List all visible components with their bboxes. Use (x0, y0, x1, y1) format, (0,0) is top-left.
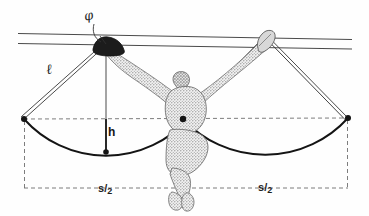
pendulum-diagram-svg (0, 0, 369, 216)
span-left-denominator: 2 (107, 186, 112, 196)
gymnast-right-foot (182, 193, 194, 211)
h-label: h (108, 126, 115, 138)
arc-low-point-marker (103, 149, 109, 155)
span-left-label: s/2 (98, 183, 112, 194)
right-hand-grip-icon (257, 30, 275, 52)
phi-angle-annotation (93, 24, 106, 44)
span-right-label: s/2 (258, 182, 272, 193)
centre-of-mass-marker (180, 116, 186, 122)
horizontal-bar-top-rail (18, 34, 352, 40)
right-radius-outer (267, 35, 349, 118)
swing-extreme-right-marker (345, 115, 351, 121)
left-radius-outer (24, 46, 106, 120)
swing-extreme-left-marker (21, 116, 27, 122)
span-right-denominator: 2 (267, 185, 272, 195)
pendulum-diagram-figure: φ ℓ h s/2 s/2 (0, 0, 369, 216)
gymnast-figure (106, 38, 272, 211)
gymnast-torso (165, 86, 206, 134)
left-radius-inner (22, 44, 104, 117)
horizontal-bar-bottom-rail (18, 44, 352, 50)
horizontal-bar (18, 34, 352, 50)
hands-on-bar (93, 30, 275, 56)
